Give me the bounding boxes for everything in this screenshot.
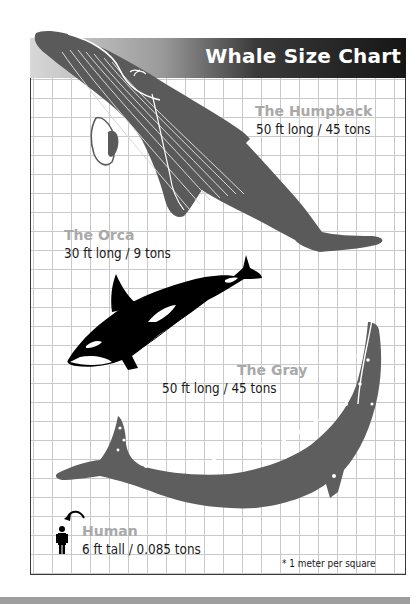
- illustration: [0, 0, 417, 604]
- human-stats: 6 ft tall / 0.085 tons: [82, 541, 201, 557]
- human-figure-icon: [56, 526, 68, 554]
- orca-name: The Orca: [64, 227, 134, 243]
- human-name: Human: [82, 523, 138, 539]
- curved-arrow-icon: [64, 512, 84, 521]
- gray-whale-stats: 50 ft long / 45 tons: [162, 380, 277, 396]
- scale-footnote: * 1 meter per square: [282, 557, 376, 569]
- humpback-stats: 50 ft long / 45 tons: [256, 121, 371, 137]
- humpback-name: The Humpback: [255, 103, 372, 119]
- humpback-whale-icon: [35, 31, 383, 252]
- orca-icon: [67, 255, 262, 370]
- orca-stats: 30 ft long / 9 tons: [64, 245, 171, 261]
- bottom-bar: [0, 597, 410, 604]
- gray-whale-name: The Gray: [237, 362, 307, 378]
